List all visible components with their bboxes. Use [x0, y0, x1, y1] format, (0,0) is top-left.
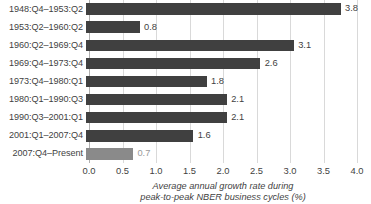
bar [86, 3, 341, 14]
bar-cell: 0.8 [86, 18, 371, 36]
x-tick-label: 4.0 [350, 166, 363, 175]
bar-row: 1948:Q4–1953:Q23.8 [0, 0, 371, 18]
bar-cell: 2.1 [86, 91, 371, 109]
category-label: 1980:Q1–1990:Q3 [0, 95, 86, 104]
bar-row: 2007:Q4–Present0.7 [0, 145, 371, 163]
bar-cell: 1.6 [86, 127, 371, 145]
bar-cell: 2.6 [86, 54, 371, 72]
x-tick-label: 1.5 [183, 166, 196, 175]
x-tick-label: 2.0 [216, 166, 229, 175]
category-label: 1990:Q3–2001:Q1 [0, 113, 86, 122]
bar-value-label: 2.6 [265, 59, 278, 68]
x-tick-label: 2.5 [250, 166, 263, 175]
bar-row: 1960:Q2–1969:Q43.1 [0, 36, 371, 54]
bar [86, 148, 133, 159]
bar-row: 1990:Q3–2001:Q12.1 [0, 109, 371, 127]
bar [86, 76, 207, 87]
bar-cell: 1.8 [86, 72, 371, 90]
plot-area: 1948:Q4–1953:Q23.81953:Q2–1960:Q20.81960… [0, 0, 371, 163]
bar-value-label: 2.1 [231, 95, 244, 104]
x-tick-label: 3.5 [317, 166, 330, 175]
bar-cell: 0.7 [86, 145, 371, 163]
bar-value-label: 2.1 [231, 113, 244, 122]
bar-value-label: 0.7 [137, 149, 150, 158]
category-label: 2001:Q1–2007:Q4 [0, 131, 86, 140]
bar-value-label: 3.8 [345, 4, 358, 13]
category-label: 1948:Q4–1953:Q2 [0, 5, 86, 14]
bar-cell: 2.1 [86, 109, 371, 127]
bar [86, 130, 193, 141]
x-tick-label: 1.0 [149, 166, 162, 175]
bar [86, 112, 227, 123]
bar [86, 21, 140, 32]
category-label: 1960:Q2–1969:Q4 [0, 41, 86, 50]
bar-row: 1973:Q4–1980:Q11.8 [0, 72, 371, 90]
x-axis-caption-line-2: peak-to-peak NBER business cycles (%) [89, 192, 357, 203]
category-label: 1969:Q4–1973:Q4 [0, 59, 86, 68]
x-axis-caption-line-1: Average annual growth rate during [89, 181, 357, 192]
x-axis: 0.00.51.01.52.02.53.03.54.0 [0, 163, 371, 180]
category-label: 2007:Q4–Present [0, 149, 86, 158]
x-tick-label: 3.0 [283, 166, 296, 175]
bar-cell: 3.1 [86, 36, 371, 54]
bar-value-label: 1.6 [198, 131, 211, 140]
bar [86, 40, 294, 51]
bar [86, 94, 227, 105]
x-tick-label: 0.0 [82, 166, 95, 175]
bar-row: 1969:Q4–1973:Q42.6 [0, 54, 371, 72]
x-axis-caption: Average annual growth rate during peak-t… [89, 181, 357, 203]
bar-row: 1980:Q1–1990:Q32.1 [0, 91, 371, 109]
category-label: 1973:Q4–1980:Q1 [0, 77, 86, 86]
bar-cell: 3.8 [86, 0, 371, 18]
category-label: 1953:Q2–1960:Q2 [0, 23, 86, 32]
bar-value-label: 0.8 [144, 23, 157, 32]
bar-chart: 1948:Q4–1953:Q23.81953:Q2–1960:Q20.81960… [0, 0, 371, 204]
bar [86, 58, 260, 69]
bar-row: 1953:Q2–1960:Q20.8 [0, 18, 371, 36]
bar-rows: 1948:Q4–1953:Q23.81953:Q2–1960:Q20.81960… [0, 0, 371, 163]
bar-row: 2001:Q1–2007:Q41.6 [0, 127, 371, 145]
bar-value-label: 1.8 [211, 77, 224, 86]
x-tick-label: 0.5 [116, 166, 129, 175]
bar-value-label: 3.1 [298, 41, 311, 50]
